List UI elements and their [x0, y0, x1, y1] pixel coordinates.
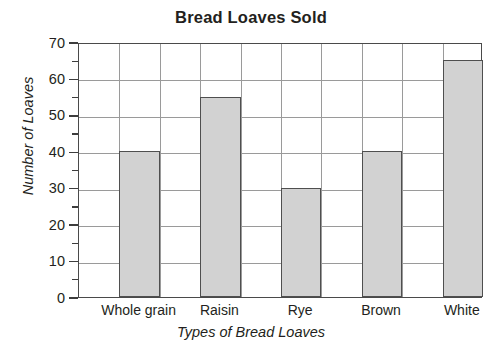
y-tick-label-20: 20: [39, 218, 65, 233]
gridline-x-4: [241, 44, 242, 297]
y-tick-label-30: 30: [39, 181, 65, 196]
y-tick-label-40: 40: [39, 145, 65, 160]
gridline-y-60: [79, 80, 481, 81]
bar-white[interactable]: [443, 60, 483, 297]
y-tick-major-20: [69, 224, 78, 226]
chart-title: Bread Loaves Sold: [0, 8, 502, 27]
x-axis-title: Types of Bread Loaves: [0, 324, 502, 340]
gridline-x-6: [321, 44, 322, 297]
gridline-x-2: [160, 44, 161, 297]
bar-whole-grain[interactable]: [119, 151, 159, 297]
y-tick-label-60: 60: [39, 72, 65, 87]
y-tick-major-10: [69, 261, 78, 263]
bar-brown[interactable]: [362, 151, 402, 297]
gridline-y-50: [79, 117, 481, 118]
y-tick-label-70: 70: [39, 36, 65, 51]
y-tick-major-50: [69, 115, 78, 117]
y-tick-major-30: [69, 188, 78, 190]
bar-raisin[interactable]: [200, 97, 240, 297]
y-tick-label-0: 0: [39, 291, 65, 306]
x-tick-label-white: White: [392, 302, 502, 318]
gridline-x-8: [402, 44, 403, 297]
y-tick-major-60: [69, 79, 78, 81]
plot-area: [78, 43, 482, 298]
y-tick-major-40: [69, 152, 78, 154]
y-tick-major-70: [69, 42, 78, 44]
bar-chart-figure: Bread Loaves Sold 010203040506070 Number…: [0, 0, 502, 360]
y-tick-major-0: [69, 297, 78, 299]
y-axis-title: Number of Loaves: [20, 46, 36, 226]
y-tick-label-50: 50: [39, 108, 65, 123]
bar-rye[interactable]: [281, 188, 321, 297]
y-tick-label-10: 10: [39, 254, 65, 269]
